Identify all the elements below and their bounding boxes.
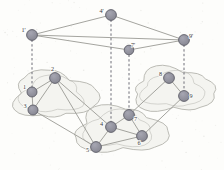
abstract-edges-layer [32,15,184,50]
physical-node-5[interactable] [91,142,102,153]
label-2: 2 [51,65,54,72]
domain-clouds-layer [12,65,215,152]
abstract-link [111,15,184,40]
diagram-canvas: 1234567891'4'7'9' [0,0,224,170]
abstract-link [32,15,111,35]
physical-node-2[interactable] [50,73,61,84]
abstract-link [129,40,184,50]
abstract-link [32,35,129,50]
abstract-nodes-layer [27,10,190,55]
network-topology-figure: 1234567891'4'7'9' [0,0,224,170]
label-1p: 1' [21,26,25,33]
abstract-node-1p[interactable] [27,30,38,41]
label-7p: 7' [131,41,135,48]
physical-node-9[interactable] [179,91,190,102]
label-4p: 4' [99,7,103,14]
physical-node-4[interactable] [106,122,117,133]
physical-node-3[interactable] [28,105,38,115]
label-9: 9 [189,92,192,99]
label-4: 4 [100,120,103,127]
abstract-node-9p[interactable] [179,35,190,46]
abstract-link [32,35,184,40]
physical-node-8[interactable] [164,73,175,84]
label-3: 3 [23,102,26,109]
label-6: 6 [137,139,140,146]
label-5: 5 [86,146,89,153]
label-7: 7 [134,115,137,122]
label-1: 1 [23,83,26,90]
label-9p: 9' [189,32,193,39]
physical-node-1[interactable] [27,87,37,97]
label-8: 8 [159,70,162,77]
abstract-node-4p[interactable] [106,10,117,21]
physical-node-7[interactable] [124,110,135,121]
